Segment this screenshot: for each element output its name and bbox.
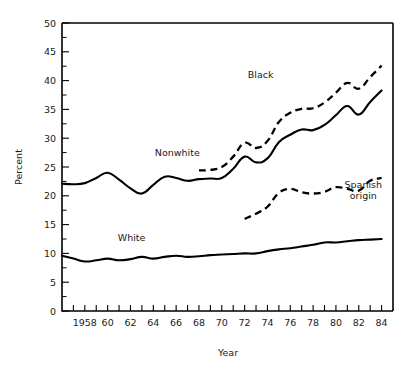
y-tick-label: 0 bbox=[50, 306, 56, 317]
y-tick-label: 40 bbox=[44, 75, 56, 86]
y-tick-label: 15 bbox=[44, 219, 56, 230]
series-line-black bbox=[199, 66, 382, 171]
x-tick-labels: 195860626466687072747678808284 bbox=[73, 317, 388, 328]
y-tick-label: 35 bbox=[44, 104, 56, 115]
x-tick-label: 78 bbox=[307, 317, 319, 328]
line-chart: 195860626466687072747678808284 051015202… bbox=[0, 0, 416, 373]
y-tick-label: 45 bbox=[44, 46, 56, 57]
x-axis-title: Year bbox=[217, 347, 238, 358]
x-tick-label: 64 bbox=[147, 317, 159, 328]
x-tick-label: 1958 bbox=[73, 317, 97, 328]
chart-figure: 195860626466687072747678808284 051015202… bbox=[0, 0, 416, 373]
y-tick-labels: 05101520253035404550 bbox=[44, 18, 56, 317]
x-tick-label: 74 bbox=[261, 317, 273, 328]
series-lines bbox=[62, 66, 382, 262]
y-tick-label: 20 bbox=[44, 190, 56, 201]
y-tick-label: 30 bbox=[44, 133, 56, 144]
series-label-black: Black bbox=[248, 69, 274, 80]
x-tick-label: 76 bbox=[284, 317, 296, 328]
x-tick-label: 60 bbox=[102, 317, 114, 328]
axis-spines bbox=[62, 23, 393, 311]
x-tick-label: 82 bbox=[353, 317, 365, 328]
x-tick-label: 80 bbox=[330, 317, 342, 328]
series-line-nonwhite bbox=[62, 90, 382, 193]
y-axis-title: Percent bbox=[13, 149, 24, 185]
x-tick-label: 70 bbox=[216, 317, 228, 328]
series-label-spanish: Spanish bbox=[345, 179, 383, 190]
x-tick-label: 68 bbox=[193, 317, 205, 328]
series-line-white bbox=[62, 239, 382, 262]
x-tick-label: 66 bbox=[170, 317, 182, 328]
x-tick-label: 84 bbox=[376, 317, 388, 328]
series-label-white: White bbox=[118, 232, 146, 243]
y-tick-label: 5 bbox=[50, 277, 56, 288]
x-tick-label: 72 bbox=[239, 317, 251, 328]
y-tick-label: 50 bbox=[44, 18, 56, 29]
series-label-nonwhite: Nonwhite bbox=[155, 147, 200, 158]
y-tick-label: 25 bbox=[44, 162, 56, 173]
series-label-spanish-line2: origin bbox=[350, 190, 377, 201]
y-tick-label: 10 bbox=[44, 248, 56, 259]
axes-group bbox=[62, 23, 393, 311]
x-tick-label: 62 bbox=[124, 317, 136, 328]
